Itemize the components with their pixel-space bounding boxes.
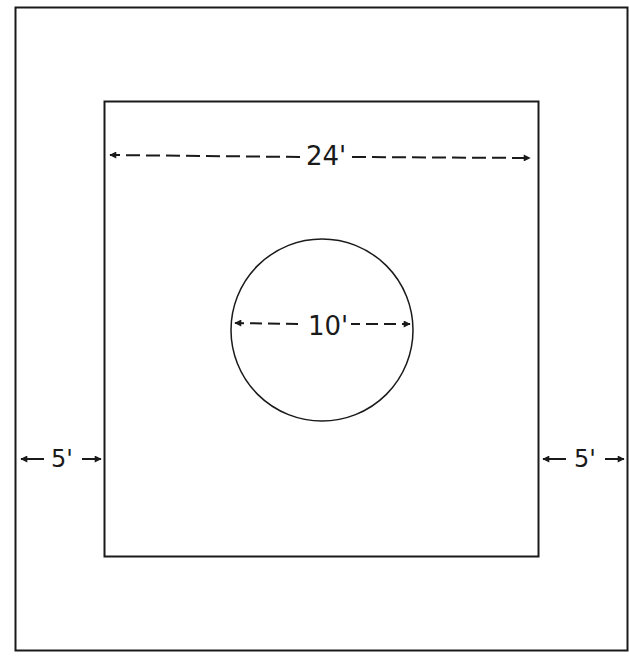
right-margin-label: 5' <box>572 447 598 471</box>
left-margin-label: 5' <box>49 447 75 471</box>
circle-diameter-label: 10' <box>305 313 351 339</box>
inner-width-label: 24' <box>302 143 350 169</box>
